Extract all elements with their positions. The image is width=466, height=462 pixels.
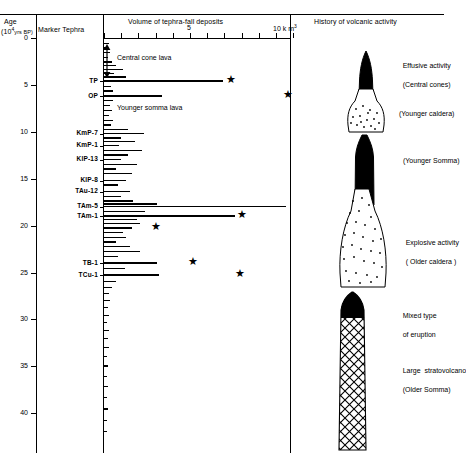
tephra-volume-bar <box>104 173 132 174</box>
marker-tephra-leader <box>100 134 104 135</box>
volume-tick <box>207 33 208 38</box>
marker-tephra-label: TP <box>42 78 98 85</box>
age-tick <box>31 85 36 86</box>
tephra-volume-bar <box>104 356 107 357</box>
tephra-volume-bar <box>104 191 130 192</box>
volume-tick-label: 5 <box>187 24 191 31</box>
tephra-volume-bar <box>104 124 111 125</box>
effusive-activity-line2: (Central cones) <box>403 81 451 88</box>
tephra-volume-bar <box>104 211 145 213</box>
explosive-activity-line1: Explosive activity <box>406 239 459 246</box>
mixed-type-line2: of eruption <box>403 331 436 338</box>
history-label-mixed-type: Mixed type of eruption <box>391 302 437 349</box>
eruption-star-marker: ★ <box>237 209 247 220</box>
tephra-volume-bar <box>104 237 126 238</box>
tephra-volume-bar <box>104 251 140 253</box>
tephra-volume-bar <box>104 386 108 387</box>
age-tick <box>31 226 36 227</box>
marker-tephra-leader <box>100 160 104 161</box>
tephra-volume-bar <box>104 137 121 138</box>
marker-tephra-leader <box>100 263 104 264</box>
age-tick <box>31 179 36 180</box>
tephra-volume-bar <box>104 164 137 165</box>
marker-tephra-label: TB-1 <box>42 260 98 267</box>
tephra-volume-bar <box>104 315 109 316</box>
age-tick <box>31 132 36 133</box>
marker-tephra-leader <box>100 207 104 208</box>
annotation-central-cone-lava: Central cone lava <box>117 54 171 63</box>
large-stratovolcano-line1: Large stratovolcano <box>403 367 466 374</box>
tephra-volume-bar <box>104 133 144 135</box>
marker-tephra-label: KmP-7 <box>42 130 98 137</box>
age-axis <box>36 38 37 453</box>
older-somma-shape <box>336 292 384 452</box>
marker-tephra-label: KlP-13 <box>42 156 98 163</box>
history-label-effusive-activity: Effusive activity (Central cones) <box>391 52 451 99</box>
tephra-volume-bar <box>104 256 118 257</box>
tephra-volume-bar <box>104 322 107 323</box>
tephra-volume-bar <box>104 365 108 366</box>
age-header-label: Age <box>4 18 17 25</box>
tephra-volume-bar <box>104 100 113 101</box>
tephra-volume-bar <box>104 206 286 208</box>
central-cone-lava-arrow <box>100 44 114 78</box>
age-tick-label: 10 <box>2 128 28 135</box>
age-tick-label: 15 <box>2 175 28 182</box>
marker-tephra-leader <box>100 181 104 182</box>
history-header: History of volcanic activity <box>314 18 397 25</box>
age-tick-label: 5 <box>2 81 28 88</box>
tephra-volume-bar <box>104 397 107 398</box>
tephra-volume-bar <box>104 307 108 308</box>
marker-tephra-label: TAm-5 <box>42 203 98 210</box>
tephra-volume-bar <box>104 293 109 294</box>
tephra-volume-bar <box>104 180 126 181</box>
marker-tephra-label: KlP-8 <box>42 177 98 184</box>
age-tick-label: 40 <box>2 409 28 416</box>
age-tick-label: 35 <box>2 362 28 369</box>
marker-tephra-leader <box>100 192 104 193</box>
tephra-volume-bar <box>104 232 123 233</box>
tephra-volume-bar <box>104 80 223 82</box>
volume-axis <box>104 38 290 39</box>
tephra-volume-bar <box>104 262 157 264</box>
tephra-volume-bar <box>104 227 132 228</box>
explosive-activity-line2: ( Older caldera ) <box>406 258 457 265</box>
age-tick-label: 30 <box>2 315 28 322</box>
eruption-star-marker: ★ <box>226 74 236 85</box>
tephra-volume-bar <box>104 431 107 432</box>
tephra-volume-bar <box>104 159 121 160</box>
volume-tick <box>276 33 277 38</box>
tephra-volume-bar <box>104 274 159 276</box>
large-stratovolcano-line2: (Older Somma) <box>403 386 451 393</box>
marker-tephra-label: TAu-12 <box>42 188 98 195</box>
volume-tick <box>138 33 139 38</box>
age-tick <box>31 319 36 320</box>
eruption-star-marker: ★ <box>151 221 161 232</box>
tephra-volume-bar <box>104 105 110 106</box>
tephra-volume-bar <box>104 338 108 339</box>
tephra-volume-bar <box>104 110 112 111</box>
tephra-volume-bar <box>104 287 112 288</box>
tephra-volume-bar <box>104 196 121 197</box>
tephra-volume-bar <box>104 241 116 242</box>
marker-tephra-header: Marker Tephra <box>38 26 84 33</box>
volcanic-history-column: Effusive activity (Central cones) (Young… <box>291 39 444 453</box>
header-rule <box>0 14 444 15</box>
volume-tick <box>121 33 122 38</box>
tephra-volume-bar <box>104 95 162 97</box>
marker-tephra-leader <box>100 96 104 97</box>
age-tick-label: 25 <box>2 269 28 276</box>
age-tick <box>31 366 36 367</box>
volume-tick-label: 10 k m3 <box>273 24 297 32</box>
younger-caldera-shape <box>339 89 393 133</box>
tephra-volume-bar <box>104 300 110 301</box>
volume-tick <box>104 33 105 38</box>
tephra-volume-bar <box>104 408 108 409</box>
volume-tick <box>259 33 260 38</box>
effusive-activity-line1: Effusive activity <box>403 62 451 69</box>
tephra-volume-bar <box>104 120 113 121</box>
volume-unit-exponent: 3 <box>294 23 297 29</box>
history-label-younger-somma: (Younger Somma) <box>403 156 460 165</box>
mixed-type-line1: Mixed type <box>403 312 437 319</box>
